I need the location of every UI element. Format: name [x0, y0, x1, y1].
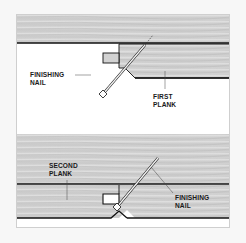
bottom-nail-label: FINISHING NAIL: [175, 194, 209, 210]
diagram-frame: FINISHING NAIL FIRST PLANK SECOND PLANK …: [16, 14, 230, 228]
top-nail-label-line2: NAIL: [30, 79, 64, 87]
bottom-nail-label-line2: NAIL: [175, 202, 209, 210]
top-nail-label: FINISHING NAIL: [30, 71, 64, 87]
top-nail-label-line1: FINISHING: [30, 71, 64, 79]
top-upper-board: [17, 15, 230, 43]
first-plank-label-line2: PLANK: [153, 101, 176, 109]
second-plank-label-line1: SECOND: [49, 162, 78, 170]
bottom-nail-label-line1: FINISHING: [175, 194, 209, 202]
first-plank-label-line1: FIRST: [153, 93, 176, 101]
first-plank-label: FIRST PLANK: [153, 93, 176, 109]
second-plank-label-line2: PLANK: [49, 170, 78, 178]
second-plank-label: SECOND PLANK: [49, 162, 78, 178]
